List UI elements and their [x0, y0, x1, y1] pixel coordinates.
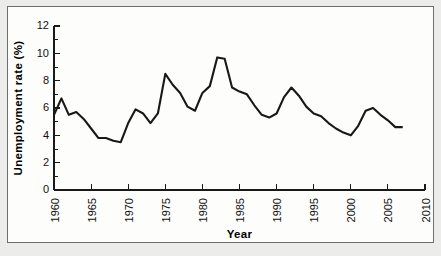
chart-panel: 024681012 196019651970197519801985199019…: [7, 6, 434, 243]
x-tick-label: 1975: [160, 198, 172, 222]
y-tick-label: 6: [43, 101, 49, 113]
unemployment-line-chart: 024681012 196019651970197519801985199019…: [8, 7, 433, 242]
x-tick-label: 1970: [123, 198, 135, 222]
y-tick-label: 2: [43, 156, 49, 168]
x-tick-label: 1960: [49, 198, 61, 222]
y-tick-label: 4: [43, 129, 49, 141]
series-unemployment-rate: [54, 57, 403, 142]
y-tick-label: 0: [43, 183, 49, 195]
x-tick-label: 1990: [271, 198, 283, 222]
x-tick-label: 2000: [345, 198, 357, 222]
x-tick-label: 2010: [420, 198, 432, 222]
x-axis-title: Year: [227, 228, 253, 240]
y-tick-label: 8: [43, 74, 49, 86]
y-axis-title: Unemployment rate (%): [12, 41, 24, 176]
x-tick-label: 1980: [197, 198, 209, 222]
y-tick-label: 12: [37, 19, 49, 31]
x-axis: 1960196519701975198019851990199520002005…: [49, 184, 432, 222]
x-tick-label: 1985: [234, 198, 246, 222]
x-tick-label: 2005: [382, 198, 394, 222]
y-tick-label: 10: [37, 47, 49, 59]
x-tick-label: 1965: [86, 198, 98, 222]
chart-figure: 024681012 196019651970197519801985199019…: [0, 0, 441, 256]
x-tick-label: 1995: [308, 198, 320, 222]
